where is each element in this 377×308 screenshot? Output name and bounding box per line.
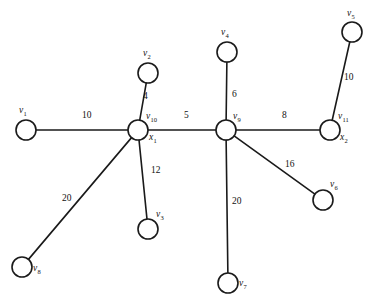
graph-edge-v4-v9	[226, 62, 227, 120]
edges-group	[28, 42, 349, 273]
node-label-subscript-v9: 9	[238, 116, 241, 123]
node-label-subscript-v10: 10	[151, 116, 158, 123]
graph-diagram: 1041220562016810v1v2v3v4v5v6v7v8v9v10x1v…	[0, 0, 377, 308]
node-label-base-v5: v	[347, 8, 351, 18]
node-label-v2: v2	[143, 49, 151, 60]
graph-edge-v10-v3	[139, 140, 147, 219]
graph-node-v5	[342, 22, 362, 42]
node-label-v11: v11	[338, 112, 349, 123]
edge-weight-v1-v10: 10	[82, 111, 92, 121]
node-label-base-v3: v	[156, 209, 160, 219]
graph-node-v8	[12, 257, 32, 277]
edge-weight-v9-v11: 8	[282, 111, 287, 121]
node-label-v3: v3	[156, 210, 164, 221]
graph-edge-v9-v6	[234, 136, 315, 194]
node-label-v7: v7	[239, 279, 247, 290]
node-label-base-v2: v	[143, 48, 147, 58]
graph-node-v2	[138, 63, 158, 83]
node-label-v1: v1	[19, 106, 27, 117]
node-label-subscript-v3: 3	[161, 214, 164, 221]
node-label-base-v6: v	[330, 179, 334, 189]
graph-node-v10	[128, 120, 148, 140]
edge-weight-v9-v7: 20	[232, 197, 242, 207]
node-label-base-v4: v	[221, 27, 225, 37]
node-label-base-v9: v	[233, 111, 237, 121]
node-alias-subscript-v10: 1	[154, 137, 157, 144]
graph-svg-layer	[0, 0, 377, 308]
node-label-v9: v9	[233, 112, 241, 123]
node-label-base-v1: v	[19, 105, 23, 115]
node-label-v4: v4	[221, 28, 229, 39]
node-label-base-v11: v	[338, 111, 342, 121]
node-label-v6: v6	[330, 180, 338, 191]
node-label-v10: v10	[146, 112, 157, 123]
node-label-base-v10: v	[146, 111, 150, 121]
graph-node-v11	[320, 120, 340, 140]
edge-weight-v10-v3: 12	[151, 166, 161, 176]
node-label-base-v7: v	[239, 278, 243, 288]
node-label-base-v8: v	[33, 263, 37, 273]
edge-weight-v11-v5: 10	[344, 73, 354, 83]
edge-weight-v10-v9: 5	[184, 111, 189, 121]
node-label-subscript-v11: 11	[343, 116, 349, 123]
graph-node-v1	[16, 120, 36, 140]
node-label-v8: v8	[33, 264, 41, 275]
nodes-group	[12, 22, 362, 293]
graph-node-v7	[218, 273, 238, 293]
graph-node-v4	[217, 42, 237, 62]
graph-node-v6	[313, 190, 333, 210]
node-alias-base-v10: x	[149, 132, 153, 142]
graph-edge-v9-v7	[226, 140, 228, 273]
node-label-subscript-v1: 1	[24, 110, 27, 117]
node-label-subscript-v8: 8	[38, 268, 41, 275]
graph-edge-v10-v8	[28, 138, 131, 260]
node-label-v5: v5	[347, 9, 355, 20]
edge-weight-v9-v6: 16	[285, 160, 295, 170]
node-label-subscript-v4: 4	[226, 32, 229, 39]
edge-weight-v2-v10: 4	[143, 92, 148, 102]
graph-node-v3	[138, 219, 158, 239]
node-alias-subscript-v11: 2	[345, 137, 348, 144]
node-label-subscript-v6: 6	[335, 184, 338, 191]
node-alias-label-v11: x2	[340, 133, 348, 144]
node-label-subscript-v7: 7	[244, 283, 247, 290]
node-label-subscript-v5: 5	[352, 13, 355, 20]
edge-weight-v4-v9: 6	[232, 90, 237, 100]
node-alias-base-v11: x	[340, 132, 344, 142]
node-alias-label-v10: x1	[149, 133, 157, 144]
node-label-subscript-v2: 2	[148, 53, 151, 60]
edge-weight-v10-v8: 20	[62, 194, 72, 204]
